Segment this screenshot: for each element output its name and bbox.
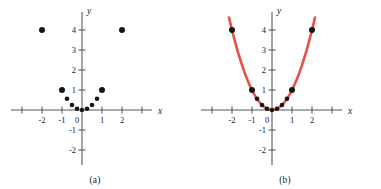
data-point <box>39 27 45 33</box>
origin-label: 0 <box>75 115 79 125</box>
data-point <box>270 108 275 113</box>
y-axis-tick-label: 1 <box>262 85 266 95</box>
y-axis-tick-label: -1 <box>69 125 76 135</box>
data-point <box>229 27 235 33</box>
data-point <box>90 103 95 108</box>
data-point <box>119 27 125 33</box>
y-axis-tick-label: 2 <box>262 65 266 75</box>
x-axis-tick-label: -2 <box>38 115 45 125</box>
panel-a: -2-1124321-1-20xy (a) <box>0 0 190 189</box>
data-point <box>95 96 100 101</box>
x-axis-tick-label: 1 <box>290 115 294 125</box>
y-axis-tick-label: 3 <box>262 45 266 55</box>
x-axis-label: x <box>347 106 353 116</box>
data-point <box>309 27 315 33</box>
data-point <box>275 106 280 111</box>
data-point <box>280 103 285 108</box>
data-point <box>249 87 255 93</box>
x-axis-tick-label: 2 <box>120 115 124 125</box>
y-axis-tick-label: -2 <box>69 145 76 155</box>
x-axis-label: x <box>157 106 163 116</box>
scatter-plot-with-fit-b: -2-1124321-1-20xy <box>190 0 380 170</box>
y-axis-tick-label: 1 <box>72 85 76 95</box>
origin-label: 0 <box>265 115 269 125</box>
data-point <box>285 96 290 101</box>
scatter-plot-a: -2-1124321-1-20xy <box>0 0 190 170</box>
data-point <box>70 103 75 108</box>
data-point <box>99 87 105 93</box>
data-point <box>75 106 80 111</box>
x-axis-tick-label: 2 <box>310 115 314 125</box>
y-axis-label: y <box>276 6 282 16</box>
x-axis-tick-label: -1 <box>248 115 255 125</box>
data-point <box>260 103 265 108</box>
panel-b-caption: (b) <box>190 175 380 185</box>
y-axis-label: y <box>86 6 92 16</box>
x-axis-tick-label: -2 <box>228 115 235 125</box>
data-point <box>80 108 85 113</box>
data-point <box>255 96 260 101</box>
data-point <box>85 106 90 111</box>
y-axis-tick-label: 2 <box>72 65 76 75</box>
y-axis-tick-label: -1 <box>259 125 266 135</box>
panel-b: -2-1124321-1-20xy (b) <box>190 0 380 189</box>
y-axis-tick-label: 4 <box>72 25 77 35</box>
y-axis-tick-label: -2 <box>259 145 266 155</box>
data-point <box>59 87 65 93</box>
x-axis-tick-label: 1 <box>100 115 104 125</box>
data-point <box>265 106 270 111</box>
figure-container: -2-1124321-1-20xy (a) -2-1124321-1-20xy … <box>0 0 381 189</box>
y-axis-tick-label: 4 <box>262 25 267 35</box>
panel-a-caption: (a) <box>0 175 190 185</box>
y-axis-tick-label: 3 <box>72 45 76 55</box>
data-point <box>289 87 295 93</box>
x-axis-tick-label: -1 <box>58 115 65 125</box>
data-point <box>65 96 70 101</box>
